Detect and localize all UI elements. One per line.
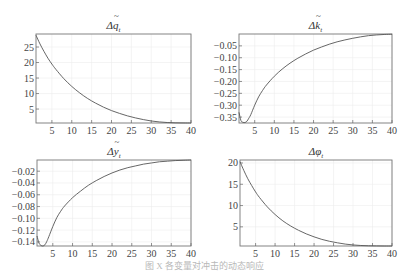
tilde-accent: ~ xyxy=(316,11,321,21)
svg-text:−0.05: −0.05 xyxy=(214,40,237,51)
plot-frame xyxy=(36,34,191,123)
grid-lines xyxy=(37,160,191,246)
y-axis-ticks: −0.05−0.10−0.15−0.20−0.25−0.30−0.35 xyxy=(214,40,242,122)
svg-text:5: 5 xyxy=(252,125,257,136)
data-line xyxy=(36,35,191,123)
svg-text:−0.10: −0.10 xyxy=(214,52,237,63)
svg-text:20: 20 xyxy=(107,248,117,259)
svg-text:20: 20 xyxy=(309,125,319,136)
y-axis-ticks: 5101520 xyxy=(228,157,243,232)
svg-text:−0.25: −0.25 xyxy=(214,88,237,99)
svg-text:20: 20 xyxy=(228,157,238,168)
svg-text:−0.12: −0.12 xyxy=(12,225,35,236)
y-axis-ticks: −0.02−0.04−0.06−0.08−0.10−0.12−0.14 xyxy=(12,166,40,248)
chart-title: Δkt xyxy=(308,19,323,34)
grid-lines xyxy=(239,34,392,123)
svg-text:10: 10 xyxy=(270,248,280,259)
svg-text:10: 10 xyxy=(228,200,238,211)
svg-text:25: 25 xyxy=(127,248,137,259)
chart-panel-4: 5101520253035405101520Δφt xyxy=(228,145,397,259)
grid-lines xyxy=(36,34,191,123)
chart-canvas: 510152025303540510152025Δqt~510152025303… xyxy=(0,0,409,277)
svg-text:30: 30 xyxy=(147,248,157,259)
chart-title: Δφt xyxy=(308,145,325,160)
svg-text:30: 30 xyxy=(348,248,358,259)
svg-text:25: 25 xyxy=(329,248,339,259)
svg-text:15: 15 xyxy=(228,179,238,190)
svg-text:15: 15 xyxy=(289,125,299,136)
svg-text:30: 30 xyxy=(146,125,156,136)
svg-text:15: 15 xyxy=(290,248,300,259)
chart-panel-1: 510152025303540510152025Δqt~ xyxy=(24,11,196,136)
svg-text:10: 10 xyxy=(24,88,34,99)
svg-text:25: 25 xyxy=(328,125,338,136)
svg-text:10: 10 xyxy=(67,125,77,136)
plot-frame xyxy=(37,160,191,246)
plot-frame xyxy=(239,34,392,123)
svg-text:35: 35 xyxy=(166,125,176,136)
svg-text:5: 5 xyxy=(49,125,54,136)
svg-text:5: 5 xyxy=(29,104,34,115)
svg-text:40: 40 xyxy=(186,248,196,259)
tilde-accent: ~ xyxy=(115,137,120,147)
svg-text:−0.30: −0.30 xyxy=(214,100,237,111)
svg-text:−0.06: −0.06 xyxy=(12,189,35,200)
data-line xyxy=(240,162,392,246)
plot-frame xyxy=(240,160,392,246)
x-axis-ticks: 510152025303540 xyxy=(253,243,397,259)
svg-text:40: 40 xyxy=(186,125,196,136)
x-axis-ticks: 510152025303540 xyxy=(252,120,397,136)
svg-text:10: 10 xyxy=(68,248,78,259)
y-axis-ticks: 510152025 xyxy=(24,42,39,115)
svg-text:−0.15: −0.15 xyxy=(214,64,237,75)
svg-text:−0.10: −0.10 xyxy=(12,213,35,224)
svg-text:−0.02: −0.02 xyxy=(12,166,35,177)
svg-text:5: 5 xyxy=(50,248,55,259)
svg-text:20: 20 xyxy=(107,125,117,136)
svg-text:35: 35 xyxy=(368,248,378,259)
chart-title: Δyt xyxy=(106,145,121,160)
svg-text:30: 30 xyxy=(348,125,358,136)
svg-text:5: 5 xyxy=(253,248,258,259)
svg-text:−0.04: −0.04 xyxy=(12,177,35,188)
x-axis-ticks: 510152025303540 xyxy=(50,243,196,259)
svg-text:20: 20 xyxy=(24,57,34,68)
svg-text:35: 35 xyxy=(367,125,377,136)
svg-text:−0.14: −0.14 xyxy=(12,236,35,247)
svg-text:15: 15 xyxy=(87,248,97,259)
svg-text:−0.35: −0.35 xyxy=(214,112,237,123)
data-line xyxy=(37,160,191,246)
svg-text:40: 40 xyxy=(387,125,397,136)
grid-lines xyxy=(240,160,392,246)
svg-text:5: 5 xyxy=(233,221,238,232)
tilde-accent: ~ xyxy=(114,11,119,21)
svg-text:−0.08: −0.08 xyxy=(12,201,35,212)
svg-text:15: 15 xyxy=(87,125,97,136)
chart-title: Δqt xyxy=(106,19,122,34)
svg-text:15: 15 xyxy=(24,73,34,84)
svg-text:10: 10 xyxy=(269,125,279,136)
chart-panel-2: 510152025303540−0.05−0.10−0.15−0.20−0.25… xyxy=(214,11,397,136)
svg-text:25: 25 xyxy=(126,125,136,136)
svg-text:20: 20 xyxy=(309,248,319,259)
figure-caption: 图 X 各变量对冲击的动态响应 xyxy=(0,259,409,272)
svg-text:40: 40 xyxy=(387,248,397,259)
svg-text:25: 25 xyxy=(24,42,34,53)
svg-text:−0.20: −0.20 xyxy=(214,76,237,87)
data-line xyxy=(239,34,392,122)
svg-text:35: 35 xyxy=(166,248,176,259)
chart-panel-3: 510152025303540−0.02−0.04−0.06−0.08−0.10… xyxy=(12,137,196,259)
